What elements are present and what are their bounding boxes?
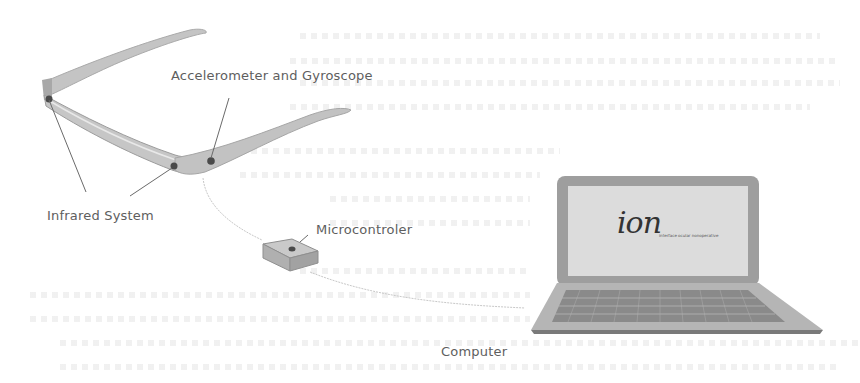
microcontroller-illustration (263, 239, 318, 271)
screen-logo-subtitle: interface ocular nonoperative (659, 233, 718, 238)
label-accelerometer-gyroscope: Accelerometer and Gyroscope (171, 68, 373, 83)
sensor-dot-accelerometer (207, 157, 215, 165)
screen-logo: ion (617, 205, 661, 240)
label-infrared-system: Infrared System (47, 208, 154, 223)
laptop-illustration (531, 176, 823, 334)
glasses-illustration (42, 29, 351, 174)
connection-cable (203, 178, 525, 308)
sensor-dot-infrared-left (46, 96, 53, 103)
diagram-canvas: ion interface ocular nonoperative Accele… (0, 0, 860, 383)
diagram-graphics (0, 0, 860, 383)
label-computer: Computer (441, 344, 507, 359)
label-microcontroller: Microcontroler (316, 222, 412, 237)
